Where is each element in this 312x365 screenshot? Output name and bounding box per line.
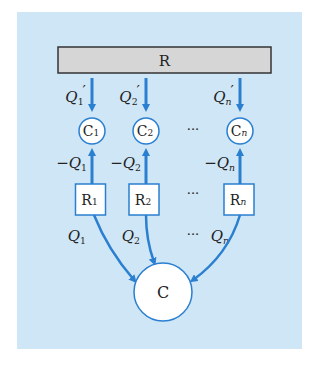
diagram: R Q1′C1−Q1R1Q1Q2′C2−Q2R2Q2Qn′Cn−QnRnQn ·… xyxy=(0,0,312,365)
reservoir-label: R xyxy=(159,52,171,70)
sink-label: C xyxy=(157,283,169,302)
ellipsis-flows: ··· xyxy=(187,227,199,242)
ellipsis-boxes: ··· xyxy=(187,186,199,201)
ellipsis-nodes: ··· xyxy=(187,122,199,137)
